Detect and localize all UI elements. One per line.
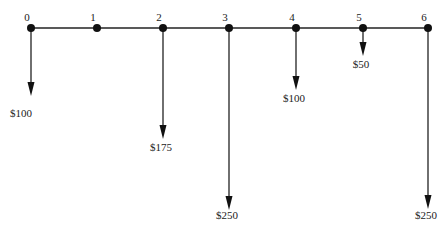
period-label: 2: [156, 11, 162, 23]
arrow-down-icon: [28, 82, 35, 96]
arrow-down-icon: [160, 125, 167, 139]
period-node: [292, 24, 300, 32]
period-node: [93, 24, 101, 32]
cashflow-amount: $250: [216, 209, 239, 221]
period-label: 1: [90, 11, 96, 23]
period-label: 5: [356, 11, 362, 23]
period-0: $1000: [10, 11, 35, 119]
period-6: $2506: [415, 11, 438, 221]
cashflow-amount: $50: [353, 58, 370, 70]
cash-flow-diagram: $10001$1752$2503$1004$505$2506: [0, 0, 442, 226]
period-2: $1752: [150, 11, 173, 153]
period-label: 0: [24, 11, 30, 23]
period-label: 4: [289, 11, 295, 23]
cashflow-amount: $175: [150, 141, 173, 153]
cashflow-amount: $100: [283, 92, 306, 104]
period-4: $1004: [283, 11, 306, 104]
period-node: [359, 24, 367, 32]
period-label: 6: [421, 11, 427, 23]
cashflow-amount: $100: [10, 107, 33, 119]
period-label: 3: [222, 11, 228, 23]
period-3: $2503: [216, 11, 239, 221]
period-node: [424, 24, 432, 32]
period-5: $505: [353, 11, 370, 70]
arrow-down-icon: [293, 76, 300, 90]
period-node: [225, 24, 233, 32]
period-node: [159, 24, 167, 32]
period-1: 1: [90, 11, 101, 32]
period-node: [27, 24, 35, 32]
arrow-down-icon: [226, 196, 233, 210]
arrow-down-icon: [425, 195, 432, 209]
cashflow-amount: $250: [415, 209, 438, 221]
arrow-down-icon: [360, 42, 367, 56]
